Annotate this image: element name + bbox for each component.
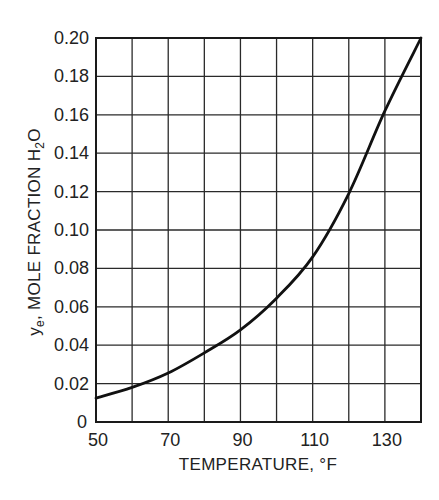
y-axis-sub: 2 — [33, 142, 47, 149]
y-tick-label: 0.06 — [54, 297, 89, 317]
y-tick-label: 0.16 — [54, 105, 89, 125]
y-tick-label: 0.14 — [54, 143, 89, 163]
y-axis-symbol-sub: e — [33, 320, 47, 327]
x-tick-labels: 507090110130 — [88, 430, 402, 450]
y-axis-symbol: y — [25, 327, 44, 336]
x-tick-label: 110 — [300, 430, 329, 450]
y-tick-label: 0.10 — [54, 220, 89, 240]
y-tick-label: 0 — [77, 412, 87, 432]
data-curve — [96, 38, 421, 398]
y-axis-text: , MOLE FRACTION H — [25, 149, 44, 320]
x-tick-label: 130 — [372, 430, 402, 450]
y-tick-label: 0.04 — [54, 335, 89, 355]
y-tick-label: 0.02 — [54, 374, 89, 394]
y-tick-label: 0.12 — [54, 182, 89, 202]
x-tick-label: 70 — [160, 430, 180, 450]
x-tick-label: 90 — [232, 430, 252, 450]
y-tick-label: 0.18 — [54, 66, 89, 86]
x-tick-label: 50 — [88, 430, 108, 450]
y-axis-tail: O — [25, 128, 44, 142]
gridlines — [96, 38, 421, 422]
x-axis-title: TEMPERATURE, °F — [179, 455, 337, 474]
y-tick-labels: 00.020.040.060.080.100.120.140.160.180.2… — [54, 28, 89, 432]
y-axis-title: ye, MOLE FRACTION H2O — [25, 128, 47, 336]
y-tick-label: 0.20 — [54, 28, 89, 48]
chart: 00.020.040.060.080.100.120.140.160.180.2… — [0, 0, 439, 500]
y-tick-label: 0.08 — [54, 258, 89, 278]
